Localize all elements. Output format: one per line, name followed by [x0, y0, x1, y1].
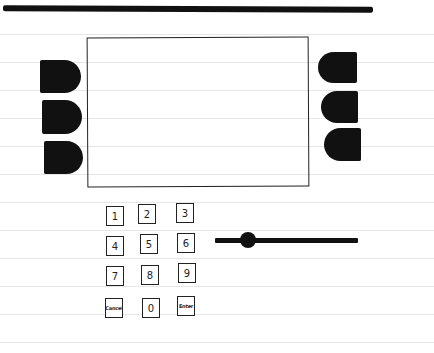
left-soft-button-3[interactable] — [44, 141, 83, 174]
ruled-line — [0, 34, 434, 35]
key-0[interactable]: 0 — [142, 298, 160, 318]
key-7[interactable]: 7 — [106, 266, 124, 286]
cancel-key[interactable]: Cancel — [105, 298, 123, 318]
display-screen — [87, 36, 310, 187]
ruled-line — [0, 202, 434, 203]
key-2[interactable]: 2 — [138, 204, 156, 224]
key-5[interactable]: 5 — [140, 234, 158, 254]
ruled-line — [0, 286, 434, 287]
left-soft-button-2[interactable] — [42, 100, 82, 134]
key-4[interactable]: 4 — [106, 236, 124, 256]
ruled-line — [0, 342, 434, 343]
ruled-line — [0, 230, 434, 231]
left-soft-button-1[interactable] — [40, 60, 81, 93]
right-soft-button-1[interactable] — [318, 52, 357, 83]
right-soft-button-3[interactable] — [324, 128, 361, 161]
key-9[interactable]: 9 — [178, 263, 196, 283]
header-bar — [3, 5, 373, 12]
enter-key[interactable]: Enter — [177, 296, 195, 316]
key-8[interactable]: 8 — [141, 265, 159, 285]
ruled-line — [0, 314, 434, 315]
ruled-line — [0, 258, 434, 259]
slider-handle[interactable] — [240, 232, 256, 248]
key-6[interactable]: 6 — [177, 233, 195, 253]
key-1[interactable]: 1 — [106, 206, 124, 226]
slider-track[interactable] — [215, 238, 358, 243]
right-soft-button-2[interactable] — [321, 91, 358, 123]
key-3[interactable]: 3 — [176, 203, 194, 223]
